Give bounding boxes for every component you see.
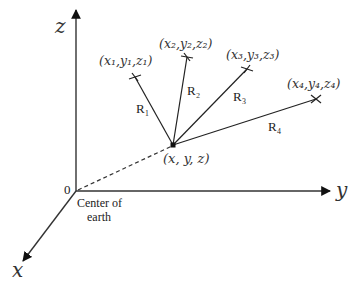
satellite-marker-4 xyxy=(311,95,321,103)
gps-trilateration-diagram: z y x 0 Center of earth (x, y, z) (x₁,y₁… xyxy=(0,0,356,286)
receiver-label: (x, y, z) xyxy=(163,151,209,166)
z-axis-label: z xyxy=(54,14,66,38)
satellite-label-3: (x₃,y₃,z₃) xyxy=(226,47,280,62)
range-label-4: R₄ xyxy=(268,119,282,134)
range-line-4 xyxy=(173,99,316,145)
y-axis-label: y xyxy=(335,178,348,202)
x-axis xyxy=(23,191,76,261)
range-label-2: R₂ xyxy=(187,83,200,98)
satellite-label-1: (x₁,y₁,z₁) xyxy=(99,53,153,68)
origin-caption-line1: Center of xyxy=(77,196,122,210)
origin-to-receiver-dashed xyxy=(78,146,172,190)
x-axis-label: x xyxy=(12,258,23,282)
range-label-1: R₁ xyxy=(136,101,149,116)
satellite-marker-3 xyxy=(241,65,253,73)
range-label-3: R₃ xyxy=(233,89,246,104)
satellite-label-4: (x₄,y₄,z₄) xyxy=(287,76,341,91)
origin-caption-line2: earth xyxy=(87,210,111,224)
satellite-marker-1 xyxy=(129,73,141,81)
satellite-label-2: (x₂,y₂,z₂) xyxy=(159,36,213,51)
origin-label: 0 xyxy=(64,182,71,197)
receiver-point xyxy=(171,143,176,148)
range-line-2 xyxy=(173,57,187,145)
